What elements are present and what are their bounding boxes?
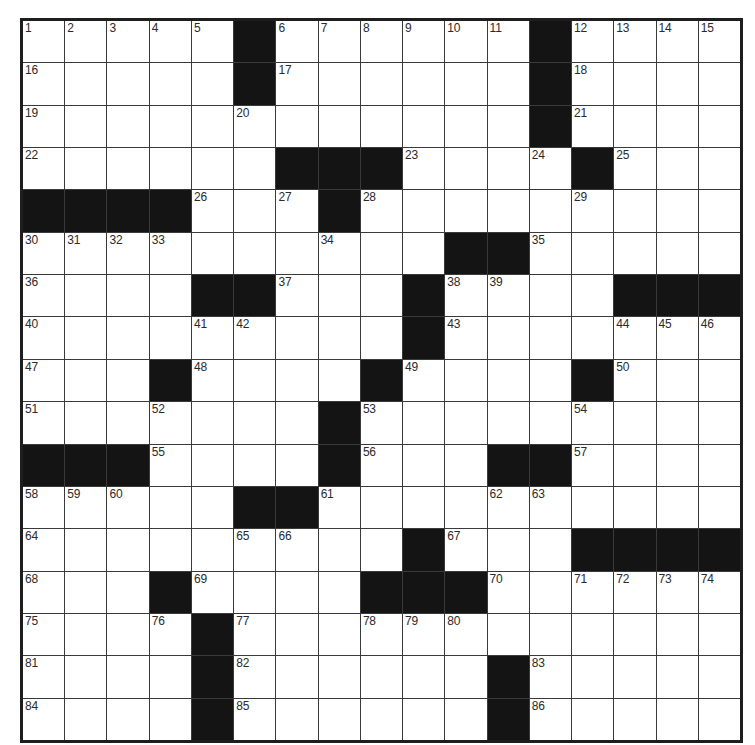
grid-cell[interactable]: 5 bbox=[192, 21, 233, 62]
grid-cell[interactable] bbox=[65, 529, 106, 570]
grid-cell[interactable] bbox=[150, 699, 191, 740]
grid-cell[interactable] bbox=[65, 402, 106, 443]
grid-cell[interactable] bbox=[65, 614, 106, 655]
grid-cell[interactable] bbox=[445, 445, 486, 486]
grid-cell[interactable]: 74 bbox=[699, 572, 740, 613]
grid-cell[interactable] bbox=[276, 360, 317, 401]
grid-cell[interactable] bbox=[445, 656, 486, 697]
grid-cell[interactable] bbox=[445, 63, 486, 104]
grid-cell[interactable] bbox=[657, 190, 698, 231]
grid-cell[interactable] bbox=[488, 63, 529, 104]
grid-cell[interactable] bbox=[107, 148, 148, 189]
grid-cell[interactable] bbox=[488, 614, 529, 655]
grid-cell[interactable]: 66 bbox=[276, 529, 317, 570]
grid-cell[interactable]: 73 bbox=[657, 572, 698, 613]
grid-cell[interactable]: 7 bbox=[319, 21, 360, 62]
grid-cell[interactable] bbox=[361, 63, 402, 104]
grid-cell[interactable] bbox=[192, 529, 233, 570]
grid-cell[interactable] bbox=[572, 233, 613, 274]
grid-cell[interactable] bbox=[65, 148, 106, 189]
grid-cell[interactable]: 35 bbox=[530, 233, 571, 274]
grid-cell[interactable] bbox=[657, 656, 698, 697]
grid-cell[interactable] bbox=[614, 106, 655, 147]
grid-cell[interactable] bbox=[657, 106, 698, 147]
grid-cell[interactable] bbox=[150, 63, 191, 104]
grid-cell[interactable] bbox=[107, 360, 148, 401]
grid-cell[interactable]: 55 bbox=[150, 445, 191, 486]
grid-cell[interactable] bbox=[276, 445, 317, 486]
grid-cell[interactable]: 34 bbox=[319, 233, 360, 274]
grid-cell[interactable] bbox=[276, 233, 317, 274]
grid-cell[interactable] bbox=[657, 699, 698, 740]
grid-cell[interactable]: 4 bbox=[150, 21, 191, 62]
grid-cell[interactable] bbox=[445, 487, 486, 528]
grid-cell[interactable]: 52 bbox=[150, 402, 191, 443]
grid-cell[interactable]: 43 bbox=[445, 317, 486, 358]
grid-cell[interactable]: 49 bbox=[403, 360, 444, 401]
grid-cell[interactable]: 10 bbox=[445, 21, 486, 62]
grid-cell[interactable]: 23 bbox=[403, 148, 444, 189]
grid-cell[interactable]: 56 bbox=[361, 445, 402, 486]
grid-cell[interactable]: 78 bbox=[361, 614, 402, 655]
grid-cell[interactable]: 18 bbox=[572, 63, 613, 104]
grid-cell[interactable]: 76 bbox=[150, 614, 191, 655]
grid-cell[interactable]: 83 bbox=[530, 656, 571, 697]
grid-cell[interactable] bbox=[361, 233, 402, 274]
grid-cell[interactable]: 8 bbox=[361, 21, 402, 62]
grid-cell[interactable] bbox=[614, 699, 655, 740]
grid-cell[interactable]: 2 bbox=[65, 21, 106, 62]
grid-cell[interactable]: 33 bbox=[150, 233, 191, 274]
grid-cell[interactable] bbox=[319, 699, 360, 740]
grid-cell[interactable] bbox=[657, 233, 698, 274]
grid-cell[interactable] bbox=[65, 572, 106, 613]
grid-cell[interactable] bbox=[488, 529, 529, 570]
grid-cell[interactable] bbox=[699, 233, 740, 274]
grid-cell[interactable] bbox=[361, 699, 402, 740]
grid-cell[interactable]: 44 bbox=[614, 317, 655, 358]
grid-cell[interactable] bbox=[699, 614, 740, 655]
grid-cell[interactable] bbox=[530, 529, 571, 570]
grid-cell[interactable]: 41 bbox=[192, 317, 233, 358]
grid-cell[interactable]: 60 bbox=[107, 487, 148, 528]
grid-cell[interactable] bbox=[657, 445, 698, 486]
grid-cell[interactable] bbox=[488, 402, 529, 443]
grid-cell[interactable] bbox=[107, 572, 148, 613]
grid-cell[interactable] bbox=[276, 572, 317, 613]
grid-cell[interactable] bbox=[234, 233, 275, 274]
grid-cell[interactable] bbox=[614, 402, 655, 443]
grid-cell[interactable] bbox=[614, 656, 655, 697]
grid-cell[interactable] bbox=[276, 699, 317, 740]
grid-cell[interactable] bbox=[530, 275, 571, 316]
grid-cell[interactable] bbox=[361, 275, 402, 316]
grid-cell[interactable] bbox=[361, 529, 402, 570]
grid-cell[interactable] bbox=[488, 360, 529, 401]
grid-cell[interactable]: 20 bbox=[234, 106, 275, 147]
grid-cell[interactable] bbox=[445, 106, 486, 147]
grid-cell[interactable] bbox=[319, 529, 360, 570]
grid-cell[interactable]: 77 bbox=[234, 614, 275, 655]
grid-cell[interactable] bbox=[65, 360, 106, 401]
grid-cell[interactable] bbox=[192, 63, 233, 104]
grid-cell[interactable]: 15 bbox=[699, 21, 740, 62]
grid-cell[interactable]: 45 bbox=[657, 317, 698, 358]
grid-cell[interactable] bbox=[699, 402, 740, 443]
grid-cell[interactable] bbox=[276, 317, 317, 358]
grid-cell[interactable]: 38 bbox=[445, 275, 486, 316]
grid-cell[interactable] bbox=[319, 572, 360, 613]
grid-cell[interactable]: 53 bbox=[361, 402, 402, 443]
grid-cell[interactable] bbox=[192, 402, 233, 443]
grid-cell[interactable]: 27 bbox=[276, 190, 317, 231]
grid-cell[interactable]: 65 bbox=[234, 529, 275, 570]
grid-cell[interactable]: 59 bbox=[65, 487, 106, 528]
grid-cell[interactable] bbox=[403, 487, 444, 528]
grid-cell[interactable] bbox=[488, 106, 529, 147]
grid-cell[interactable]: 71 bbox=[572, 572, 613, 613]
grid-cell[interactable]: 86 bbox=[530, 699, 571, 740]
grid-cell[interactable] bbox=[150, 148, 191, 189]
grid-cell[interactable]: 69 bbox=[192, 572, 233, 613]
grid-cell[interactable] bbox=[530, 317, 571, 358]
grid-cell[interactable] bbox=[445, 190, 486, 231]
grid-cell[interactable] bbox=[403, 190, 444, 231]
grid-cell[interactable] bbox=[276, 106, 317, 147]
grid-cell[interactable] bbox=[234, 148, 275, 189]
